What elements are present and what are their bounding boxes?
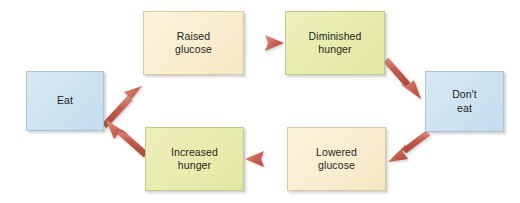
arrow-dont-eat-to-lowered-glucose xyxy=(388,133,428,162)
node-dont-eat[interactable]: Don't eat xyxy=(425,71,504,132)
node-dont-eat-label: Don't eat xyxy=(449,88,480,114)
node-increased-hunger-line2: hunger xyxy=(178,159,211,171)
node-lowered-glucose-line1: Lowered xyxy=(316,146,357,158)
node-diminished-hunger-line2: hunger xyxy=(318,43,351,55)
arrow-increased-hunger-to-eat xyxy=(106,120,146,155)
node-dont-eat-line2: eat xyxy=(457,102,472,114)
node-increased-hunger-line1: Increased xyxy=(171,146,218,158)
node-diminished-hunger[interactable]: Diminished hunger xyxy=(285,11,385,75)
node-raised-glucose-line2: glucose xyxy=(175,43,212,55)
node-diminished-hunger-line1: Diminished xyxy=(309,30,362,42)
node-raised-glucose-label: Raised glucose xyxy=(172,30,215,56)
node-increased-hunger-label: Increased hunger xyxy=(168,146,221,172)
node-raised-glucose-line1: Raised xyxy=(177,30,210,42)
diagram-canvas: Eat Raised glucose Diminished hunger Don… xyxy=(0,0,520,203)
arrow-lowered-glucose-to-increased-hunger xyxy=(245,151,286,167)
arrow-raised-glucose-to-diminished-hunger xyxy=(245,35,284,51)
node-raised-glucose[interactable]: Raised glucose xyxy=(143,11,244,75)
node-diminished-hunger-label: Diminished hunger xyxy=(306,30,365,56)
node-dont-eat-line1: Don't xyxy=(452,88,477,100)
node-lowered-glucose-line2: glucose xyxy=(318,159,355,171)
node-increased-hunger[interactable]: Increased hunger xyxy=(145,127,244,191)
node-eat[interactable]: Eat xyxy=(26,71,104,131)
node-lowered-glucose-label: Lowered glucose xyxy=(313,146,360,172)
node-eat-line1: Eat xyxy=(57,94,73,106)
node-eat-label: Eat xyxy=(54,94,76,107)
node-lowered-glucose[interactable]: Lowered glucose xyxy=(287,127,386,191)
arrow-eat-to-raised-glucose xyxy=(104,86,142,126)
arrow-diminished-hunger-to-dont-eat xyxy=(386,60,421,99)
